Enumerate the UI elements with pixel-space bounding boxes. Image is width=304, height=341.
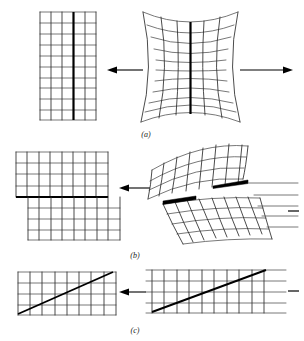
panel-a-caption: (a)	[141, 130, 151, 139]
reference-grid-c-diagonal	[18, 272, 113, 314]
deformed-grid-b-slip-wedge-lower	[163, 196, 196, 205]
deformed-grid-a	[141, 12, 240, 122]
reference-grid-a-columns	[40, 12, 96, 120]
reference-grid-c	[18, 272, 116, 315]
deformed-grid-b	[148, 144, 298, 244]
figure-canvas: (a)	[0, 0, 304, 341]
mapping-arrow-b	[119, 184, 150, 191]
deformed-grid-c-diagonal	[152, 270, 266, 312]
deformed-grid-c	[146, 270, 286, 313]
reference-grid-a-rows	[40, 12, 96, 120]
panel-c-caption: (c)	[131, 326, 140, 335]
panel-a: (a)	[40, 12, 293, 139]
panel-b-caption: (b)	[130, 251, 140, 260]
deformation-figure: (a)	[0, 0, 304, 341]
mapping-arrow-c	[119, 288, 146, 295]
deformed-grid-b-slip-wedge-upper	[213, 180, 248, 189]
panel-c: (c)	[18, 270, 299, 335]
panel-b: (b)	[16, 144, 299, 260]
reference-grid-a	[40, 12, 96, 120]
reference-grid-c-columns	[18, 272, 116, 315]
reference-grid-b-lower-columns	[28, 197, 120, 240]
deformed-grid-b-right-rows	[248, 183, 298, 227]
deformed-grid-b-lower-columns	[163, 197, 272, 244]
reference-grid-b	[16, 152, 120, 240]
reference-grid-b-upper-columns	[16, 152, 108, 197]
tension-arrow-right	[240, 66, 293, 73]
tension-arrow-left	[107, 66, 143, 73]
